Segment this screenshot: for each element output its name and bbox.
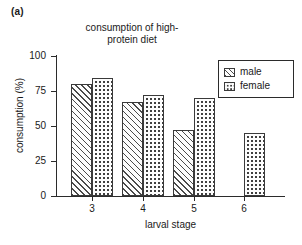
figure-panel-a: (a) consumption of high- protein diet 0 … <box>0 0 302 245</box>
legend-item-male[interactable]: male <box>224 65 288 79</box>
x-tick-label-5: 5 <box>182 204 206 214</box>
chart-title: consumption of high- protein diet <box>66 22 198 46</box>
y-axis-title: consumption (%) <box>14 56 25 176</box>
x-tick-4 <box>143 196 144 201</box>
x-tick-label-3: 3 <box>80 204 104 214</box>
bar-stage-5-female[interactable] <box>194 98 215 196</box>
bar-stage-5-male[interactable] <box>173 130 194 196</box>
bar-stage-6-female[interactable] <box>244 133 265 196</box>
y-tick-label-0: 0 <box>16 191 46 201</box>
x-tick-3 <box>92 196 93 201</box>
x-axis-line <box>56 196 285 197</box>
bar-stage-4-female[interactable] <box>143 95 164 196</box>
legend-label-female: female <box>240 81 270 91</box>
chart-title-line-2: protein diet <box>66 34 198 46</box>
chart-title-line-1: consumption of high- <box>66 22 198 34</box>
legend-swatch-male-icon <box>224 68 235 77</box>
y-tick-75 <box>51 91 56 92</box>
x-tick-label-6: 6 <box>232 204 256 214</box>
legend-item-female[interactable]: female <box>224 79 288 93</box>
x-tick-5 <box>194 196 195 201</box>
y-tick-50 <box>51 126 56 127</box>
legend-swatch-female-icon <box>224 82 235 91</box>
x-tick-label-4: 4 <box>131 204 155 214</box>
bar-stage-3-female[interactable] <box>92 78 113 196</box>
x-axis-title: larval stage <box>57 219 284 230</box>
y-tick-25 <box>51 161 56 162</box>
bar-stage-4-male[interactable] <box>122 102 143 196</box>
panel-label: (a) <box>11 6 24 17</box>
bar-stage-3-male[interactable] <box>71 84 92 196</box>
legend: male female <box>218 60 294 98</box>
y-tick-100 <box>51 56 56 57</box>
legend-label-male: male <box>240 67 262 77</box>
y-tick-0 <box>51 196 56 197</box>
x-tick-6 <box>244 196 245 201</box>
